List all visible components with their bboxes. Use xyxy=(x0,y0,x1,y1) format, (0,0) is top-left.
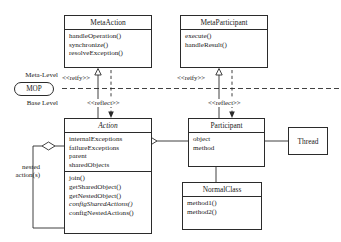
class-operations-metaparticipant: execute() handleResult() xyxy=(181,30,267,51)
operation-item: configNestedActions() xyxy=(69,209,148,218)
class-operations-normalclass: method1() method2() xyxy=(183,197,261,218)
operation-item: execute() xyxy=(185,32,264,41)
nested-aggregation-diamond xyxy=(42,142,55,150)
operation-item: getSharedObject() xyxy=(69,183,148,192)
class-operations-action: join() getSharedObject() getNestedObject… xyxy=(65,172,151,219)
class-title-action: Action xyxy=(65,119,151,133)
attribute-item: sharedObjects xyxy=(69,161,148,170)
class-operations-metaaction: handleOperation() synchronize() resolveE… xyxy=(65,30,151,60)
class-title-normalclass: NormalClass xyxy=(183,183,261,197)
attribute-item: object xyxy=(193,135,261,144)
class-title-thread: Thread xyxy=(298,137,319,146)
meta-level-label: Meta-Level xyxy=(0,71,58,79)
mop-badge[interactable]: MOP xyxy=(14,82,54,96)
connector-layer xyxy=(0,0,341,242)
class-box-action[interactable]: Action internalExceptions failureExcepti… xyxy=(64,118,152,234)
operation-item-abstract: configSharedActions() xyxy=(69,200,148,209)
operation-item: handleOperation() xyxy=(69,32,148,41)
class-title-metaaction: MetaAction xyxy=(65,16,151,30)
operation-item: join() xyxy=(69,174,148,183)
class-box-metaparticipant[interactable]: MetaParticipant execute() handleResult() xyxy=(180,15,268,68)
reify-right-arrowhead xyxy=(216,69,222,76)
class-box-participant[interactable]: Participant object method xyxy=(188,118,265,167)
base-level-label: Base Level xyxy=(0,99,58,107)
mop-badge-label: MOP xyxy=(26,85,42,93)
attribute-item: failureExceptions xyxy=(69,144,148,153)
attribute-item: parent xyxy=(69,152,148,161)
attribute-item: internalExceptions xyxy=(69,135,148,144)
uml-diagram-canvas: MetaAction handleOperation() synchronize… xyxy=(0,0,341,242)
operation-item: synchronize() xyxy=(69,41,148,50)
class-attributes-participant: object method xyxy=(189,133,264,154)
edge-label-nested-line2: action(s) xyxy=(0,171,40,179)
edge-label-reflect-right: <<reflect>> xyxy=(207,99,242,107)
class-box-metaaction[interactable]: MetaAction handleOperation() synchronize… xyxy=(64,15,152,68)
operation-item: getNestedObject() xyxy=(69,192,148,201)
edge-label-reify-right: <<reify>> xyxy=(176,74,206,82)
class-box-normalclass[interactable]: NormalClass method1() method2() xyxy=(182,182,262,230)
operation-item: method1() xyxy=(187,199,258,208)
operation-item: method2() xyxy=(187,208,258,217)
class-title-metaparticipant: MetaParticipant xyxy=(181,16,267,30)
reify-left-arrowhead xyxy=(95,69,101,76)
operation-item: resolveException() xyxy=(69,49,148,58)
operation-item: handleResult() xyxy=(185,41,264,50)
edge-label-reify-left: <<reify>> xyxy=(61,74,91,82)
class-title-participant: Participant xyxy=(189,119,264,133)
edge-label-reflect-left: <<reflect>> xyxy=(86,99,121,107)
class-attributes-action: internalExceptions failureExceptions par… xyxy=(65,133,151,172)
nested-self-loop-path xyxy=(33,146,64,228)
class-box-thread[interactable]: Thread xyxy=(288,127,328,155)
attribute-item: method xyxy=(193,144,261,153)
